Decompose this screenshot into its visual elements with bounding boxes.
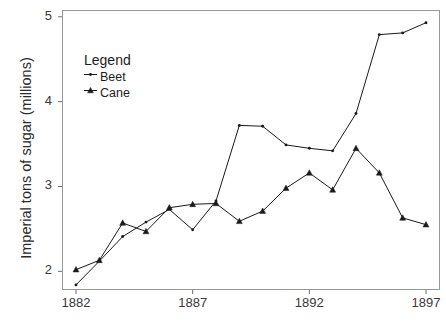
data-point-beet: [145, 221, 148, 224]
x-tick-label: 1882: [46, 295, 106, 310]
x-tick-label: 1887: [163, 295, 223, 310]
data-point-beet: [308, 147, 311, 150]
plot-area: [0, 0, 446, 326]
data-point-beet: [121, 235, 124, 238]
y-tick-label: 4: [30, 93, 52, 108]
x-tick-label: 1892: [279, 295, 339, 310]
data-point-beet: [191, 228, 194, 231]
x-tick-label: 1897: [396, 295, 446, 310]
data-point-beet: [425, 21, 428, 24]
data-point-beet: [331, 149, 334, 152]
data-point-beet: [355, 112, 358, 115]
line-chart: Imperial tons of sugar (millions) Legend…: [0, 0, 446, 326]
data-point-beet: [261, 125, 264, 128]
data-point-beet: [75, 283, 78, 286]
y-tick-label: 2: [30, 262, 52, 277]
y-tick-label: 3: [30, 177, 52, 192]
data-point-beet: [238, 124, 241, 127]
data-point-beet: [401, 31, 404, 34]
data-point-beet: [378, 33, 381, 36]
legend-key-marker-beet: [89, 73, 92, 76]
legend-label-cane: Cane: [100, 86, 130, 100]
legend-title: Legend: [84, 52, 131, 68]
legend-label-beet: Beet: [100, 70, 126, 84]
y-tick-label: 5: [30, 8, 52, 23]
data-point-beet: [285, 143, 288, 146]
